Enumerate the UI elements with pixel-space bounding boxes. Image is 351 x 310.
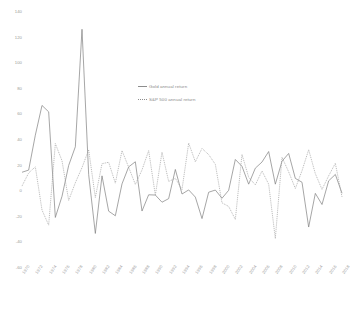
y-tick-label: -60 xyxy=(0,265,22,270)
series-line-sp500 xyxy=(22,143,342,238)
y-tick-label: 80 xyxy=(0,86,22,91)
legend-label-sp500: S&P 500 annual return xyxy=(149,97,195,102)
legend-label-gold: Gold annual return xyxy=(149,84,187,89)
y-tick-label: 0 xyxy=(0,188,22,193)
y-tick-label: 140 xyxy=(0,9,22,14)
y-tick-label: 20 xyxy=(0,163,22,168)
y-tick-label: 100 xyxy=(0,60,22,65)
legend-item-gold: Gold annual return xyxy=(138,80,195,93)
series-line-gold xyxy=(22,29,342,233)
legend-swatch-sp500 xyxy=(138,99,147,100)
legend-item-sp500: S&P 500 annual return xyxy=(138,93,195,106)
y-tick-label: 60 xyxy=(0,111,22,116)
y-tick-label: 120 xyxy=(0,35,22,40)
y-tick-label: -20 xyxy=(0,214,22,219)
y-tick-label: -40 xyxy=(0,239,22,244)
chart-legend: Gold annual return S&P 500 annual return xyxy=(138,80,195,106)
y-tick-label: 40 xyxy=(0,137,22,142)
legend-swatch-gold xyxy=(138,86,147,87)
